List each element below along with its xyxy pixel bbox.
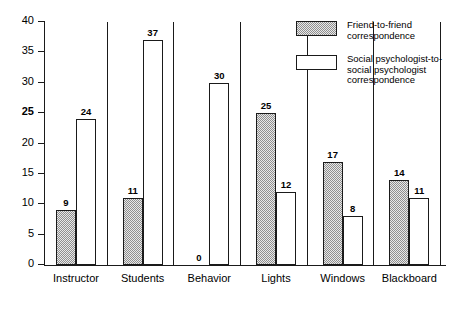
legend-swatch-shaded	[296, 21, 337, 36]
y-tick-label: 20	[4, 137, 34, 148]
y-tick-label: 40	[4, 15, 34, 26]
bar-chart: 0510152025303540 924113703025121781411 I…	[0, 0, 473, 313]
bar-value-label: 8	[343, 204, 363, 214]
legend-swatch-open	[296, 55, 337, 70]
group-separator	[173, 22, 174, 265]
bar-lights-psychologist	[276, 192, 296, 265]
bar-behavior-psychologist	[209, 83, 229, 265]
bar-value-label: 17	[323, 150, 343, 160]
legend-label: Friend-to-friend correspondence	[347, 20, 468, 41]
y-tick-label: 35	[4, 45, 34, 56]
bar-value-label: 25	[256, 101, 276, 111]
y-tick-label: 30	[4, 76, 34, 87]
bar-value-label: 11	[409, 186, 429, 196]
bar-blackboard-psychologist	[409, 198, 429, 265]
bar-value-label: 11	[123, 186, 143, 196]
bar-value-label: 24	[76, 107, 96, 117]
bar-value-label-zero: 0	[196, 253, 201, 263]
y-tick-label: 25	[4, 106, 34, 117]
bar-blackboard-friend	[389, 180, 409, 265]
bar-students-psychologist	[143, 40, 163, 265]
y-tick-label: 15	[4, 167, 34, 178]
bar-value-label: 30	[209, 71, 229, 81]
bar-lights-friend	[256, 113, 276, 265]
bar-value-label: 37	[143, 28, 163, 38]
bar-windows-friend	[323, 162, 343, 265]
bar-instructor-psychologist	[76, 119, 96, 265]
chart-legend: Friend-to-friend correspondenceSocial ps…	[296, 20, 468, 99]
y-tick-label: 10	[4, 197, 34, 208]
bar-students-friend	[123, 198, 143, 265]
bar-value-label: 9	[56, 198, 76, 208]
y-tick-label: 5	[4, 228, 34, 239]
legend-entry-1: Friend-to-friend correspondence	[296, 20, 468, 45]
bar-value-label: 14	[389, 168, 409, 178]
legend-entry-2: Social psychologist-to- social psycholog…	[296, 54, 468, 90]
legend-label: Social psychologist-to- social psycholog…	[347, 54, 468, 86]
group-separator	[240, 22, 241, 265]
x-axis-line	[44, 265, 446, 266]
x-axis-label-blackboard: Blackboard	[369, 272, 449, 284]
bar-windows-psychologist	[343, 216, 363, 265]
bar-instructor-friend	[56, 210, 76, 265]
y-tick-label: 0	[4, 258, 34, 269]
bar-value-label: 12	[276, 180, 296, 190]
group-separator	[107, 22, 108, 265]
